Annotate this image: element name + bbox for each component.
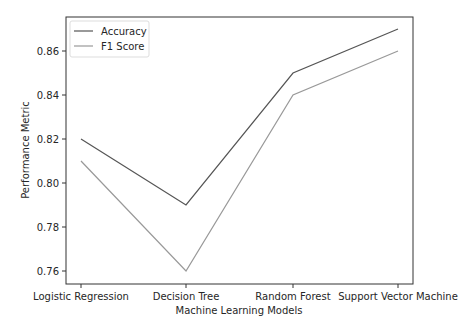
y-tick-label: 0.86 xyxy=(37,46,59,57)
y-tick-label: 0.82 xyxy=(37,134,59,145)
y-axis-ticks: 0.760.780.800.820.840.86 xyxy=(37,46,66,277)
legend: Accuracy F1 Score xyxy=(70,21,149,57)
x-tick-label: Decision Tree xyxy=(153,291,220,302)
y-tick-label: 0.80 xyxy=(37,178,59,189)
legend-label-accuracy: Accuracy xyxy=(101,26,147,37)
x-tick-label: Support Vector Machine xyxy=(338,291,458,302)
legend-label-f1-score: F1 Score xyxy=(101,41,144,52)
y-tick-label: 0.84 xyxy=(37,90,59,101)
x-axis-ticks: Logistic RegressionDecision TreeRandom F… xyxy=(33,284,458,302)
line-chart: 0.760.780.800.820.840.86 Logistic Regres… xyxy=(0,0,469,331)
y-tick-label: 0.78 xyxy=(37,222,59,233)
x-axis-label: Machine Learning Models xyxy=(176,305,303,316)
x-tick-label: Logistic Regression xyxy=(33,291,129,302)
x-tick-label: Random Forest xyxy=(255,291,330,302)
y-axis-label: Performance Metric xyxy=(20,101,31,199)
y-tick-label: 0.76 xyxy=(37,266,59,277)
